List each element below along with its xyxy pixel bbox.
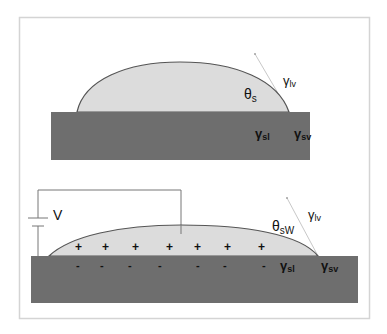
negative-charge: - [158, 259, 162, 271]
positive-charge: + [75, 240, 82, 254]
positive-charge: + [102, 240, 109, 254]
negative-charge: - [223, 259, 227, 271]
positive-charge: + [224, 240, 231, 254]
positive-charge: + [166, 240, 173, 254]
negative-charge: - [128, 259, 132, 271]
negative-charge: - [100, 259, 104, 271]
bottom-substrate [31, 256, 358, 303]
positive-charge: + [258, 240, 265, 254]
negative-charge: - [76, 259, 80, 271]
positive-charge: + [132, 240, 139, 254]
positive-charge: + [194, 240, 201, 254]
voltage-label: V [53, 207, 63, 223]
electrowetting-diagram: θs γlv γsl γsv V + + + [0, 0, 387, 334]
negative-charge: - [196, 259, 200, 271]
negative-charge: - [262, 259, 266, 271]
bottom-vector-tip [286, 197, 288, 199]
top-vector-tip [254, 53, 256, 55]
top-substrate [51, 112, 310, 160]
